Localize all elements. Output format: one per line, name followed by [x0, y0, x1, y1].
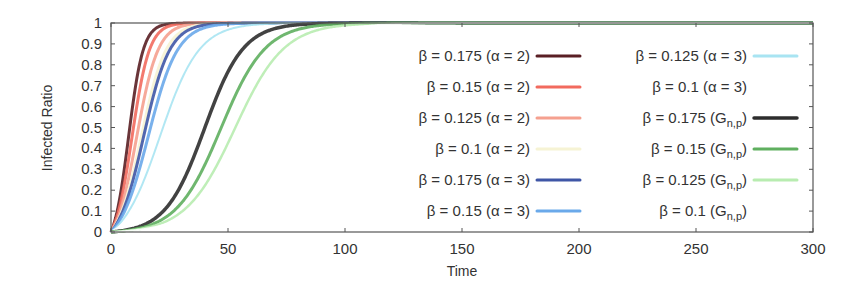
y-tick-label: 0.1 [81, 202, 102, 219]
y-tick-label: 1 [94, 14, 102, 31]
y-tick-label: 0.6 [81, 98, 102, 115]
y-tick-label: 0.3 [81, 160, 102, 177]
legend-label: β = 0.125 (α = 3) [635, 47, 747, 64]
y-tick-label: 0.7 [81, 77, 102, 94]
y-tick-label: 0 [94, 223, 102, 240]
legend-label: β = 0.1 (α = 2) [435, 140, 530, 157]
x-tick-label: 300 [800, 240, 825, 257]
legend-label: β = 0.125 (Gn,p) [643, 171, 747, 191]
y-tick-label: 0.5 [81, 119, 102, 136]
legend-item: β = 0.1 (α = 3) [652, 78, 797, 95]
legend-item: β = 0.15 (α = 3) [427, 202, 580, 219]
x-axis-label: Time [447, 263, 478, 279]
legend-item: β = 0.175 (α = 3) [418, 171, 580, 188]
x-tick-label: 200 [566, 240, 591, 257]
legend-item: β = 0.15 (Gn,p) [651, 140, 797, 160]
legend-item: β = 0.175 (Gn,p) [643, 109, 797, 129]
legend-item: β = 0.1 (α = 2) [435, 140, 580, 157]
legend-label: β = 0.1 (α = 3) [652, 78, 747, 95]
legend-item: β = 0.15 (α = 2) [427, 78, 580, 95]
x-tick-label: 100 [332, 240, 357, 257]
y-tick-label: 0.4 [81, 139, 102, 156]
infected-ratio-chart: 05010015020025030000.10.20.30.40.50.60.7… [0, 0, 858, 294]
legend-item: β = 0.125 (Gn,p) [643, 171, 797, 191]
x-tick-label: 150 [449, 240, 474, 257]
legend-label: β = 0.175 (α = 3) [418, 171, 530, 188]
legend-item: β = 0.175 (α = 2) [418, 47, 580, 64]
legend-label: β = 0.125 (α = 2) [418, 109, 530, 126]
legend-label: β = 0.175 (α = 2) [418, 47, 530, 64]
legend: β = 0.175 (α = 2)β = 0.15 (α = 2)β = 0.1… [418, 47, 797, 222]
legend-label: β = 0.15 (α = 3) [427, 202, 530, 219]
legend-item: β = 0.125 (α = 2) [418, 109, 580, 126]
legend-label: β = 0.15 (α = 2) [427, 78, 530, 95]
legend-label: β = 0.175 (Gn,p) [643, 109, 747, 129]
x-tick-label: 50 [220, 240, 237, 257]
y-axis-label: Infected Ratio [39, 85, 55, 172]
x-tick-label: 250 [683, 240, 708, 257]
x-tick-label: 0 [107, 240, 115, 257]
y-tick-label: 0.2 [81, 181, 102, 198]
legend-item: β = 0.1 (Gn,p) [659, 202, 797, 222]
y-tick-label: 0.9 [81, 35, 102, 52]
y-tick-label: 0.8 [81, 56, 102, 73]
legend-label: β = 0.1 (Gn,p) [659, 202, 747, 222]
legend-item: β = 0.125 (α = 3) [635, 47, 797, 64]
legend-label: β = 0.15 (Gn,p) [651, 140, 747, 160]
